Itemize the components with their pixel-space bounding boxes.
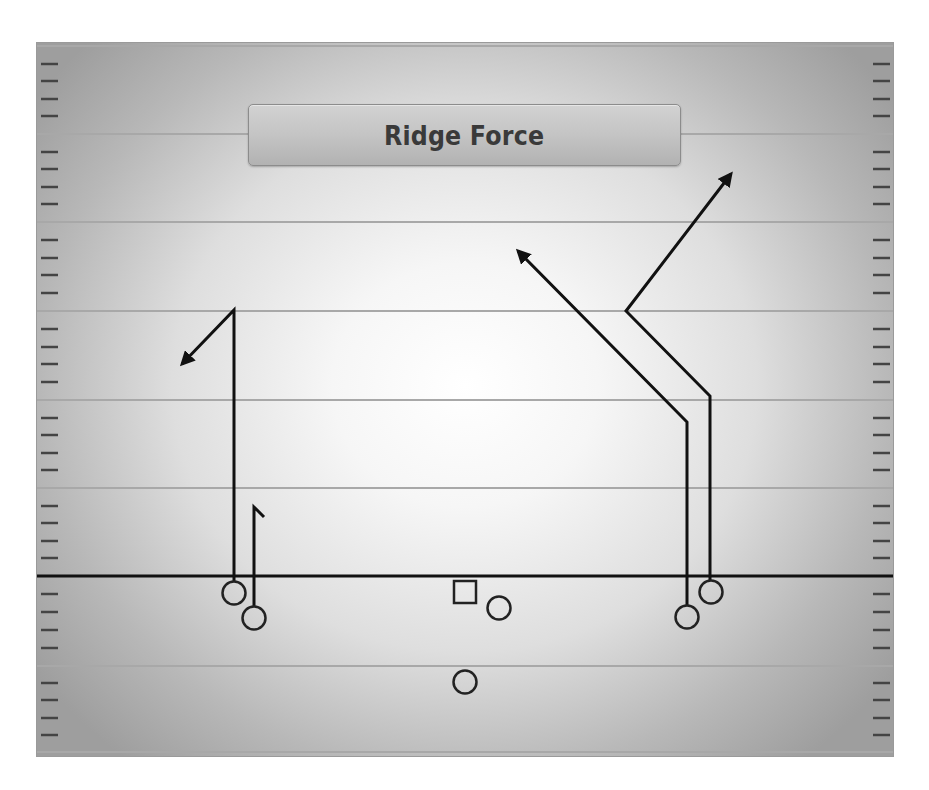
- player-wr-left-outside: [223, 582, 246, 605]
- play-title: Ridge Force: [384, 120, 544, 151]
- route-left-outside-out: [182, 310, 234, 582]
- player-center: [454, 581, 476, 603]
- players: [223, 581, 723, 694]
- route-left-inside-hitch: [254, 507, 264, 607]
- player-wr-right-outside: [700, 581, 723, 604]
- routes: [182, 174, 731, 607]
- player-quarterback: [454, 671, 477, 694]
- player-wr-right-inside: [676, 606, 699, 629]
- play-title-banner: Ridge Force: [248, 104, 681, 166]
- player-wr-left-inside: [243, 607, 266, 630]
- route-right-inside-post: [518, 251, 687, 606]
- player-right-guard: [488, 597, 511, 620]
